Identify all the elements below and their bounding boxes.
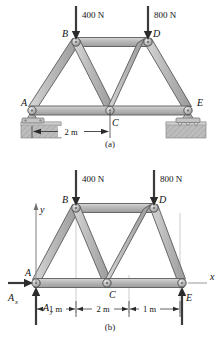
- truss-members-a: [29, 38, 192, 116]
- reaction-label-ax-sub: x: [14, 298, 18, 305]
- reaction-arrow-ax: [8, 279, 33, 287]
- joint-label-a-fig-a: A: [20, 97, 28, 108]
- support-block-e: [166, 122, 206, 138]
- axis-label-y: y: [39, 204, 45, 215]
- joint-label-e-fig-b: E: [185, 292, 192, 303]
- load-arrow-800n-a: [144, 6, 152, 40]
- load-label-400n-a: 400 N: [82, 10, 105, 20]
- load-arrow-400n-a: [72, 6, 80, 40]
- joint-label-a-fig-b: A: [24, 267, 32, 278]
- truss-members-b: [33, 204, 186, 288]
- figure-b-drawing: 1 m 2 m 1 m A B C D E y x A x A y 400 N …: [0, 165, 220, 343]
- figure-b-caption: (b): [0, 322, 220, 332]
- load-arrow-800n-b: [150, 170, 158, 206]
- reaction-label-ax-base: A: [7, 292, 15, 303]
- figure-a: 2 m A B C D E 400 N 800 N (a): [0, 0, 220, 172]
- load-label-400n-b: 400 N: [82, 174, 105, 184]
- joint-label-d-fig-a: D: [152, 28, 161, 39]
- figure-b: 1 m 2 m 1 m A B C D E y x A x A y 400 N …: [0, 165, 220, 343]
- axis-label-x: x: [209, 271, 215, 282]
- dimension-label-2m-a: 2 m: [65, 127, 78, 137]
- joint-label-b-fig-a: B: [62, 28, 68, 39]
- joint-label-c-fig-b: C: [109, 289, 116, 300]
- reaction-label-ay-base: A: [42, 302, 50, 313]
- load-label-800n-b: 800 N: [160, 174, 183, 184]
- joint-label-c-fig-a: C: [112, 117, 119, 128]
- reaction-label-ay-sub: y: [49, 308, 53, 315]
- load-arrow-400n-b: [72, 170, 80, 206]
- joint-label-b-fig-b: B: [62, 194, 68, 205]
- dimension-label-1m-right: 1 m: [143, 304, 156, 314]
- joint-label-d-fig-b: D: [158, 194, 167, 205]
- dimension-label-2m-mid: 2 m: [97, 304, 110, 314]
- figure-a-caption: (a): [0, 139, 220, 149]
- reaction-label-ax: A x: [7, 292, 18, 305]
- joint-label-e-fig-a: E: [196, 97, 203, 108]
- load-label-800n-a: 800 N: [154, 10, 177, 20]
- reaction-arrow-e: [178, 287, 186, 325]
